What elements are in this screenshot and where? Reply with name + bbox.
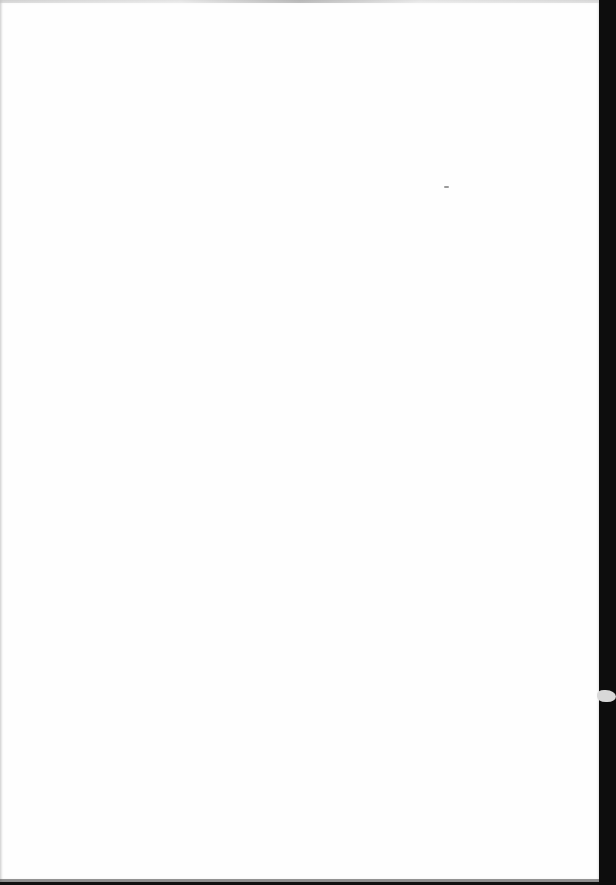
scan-speck [444, 186, 449, 188]
scanner-background-strip [599, 0, 616, 885]
page-fold-artifact [597, 690, 616, 702]
blank-scanned-page [0, 0, 599, 882]
page-bottom-edge-shadow [0, 879, 599, 882]
page-top-edge-shadow [0, 0, 599, 3]
